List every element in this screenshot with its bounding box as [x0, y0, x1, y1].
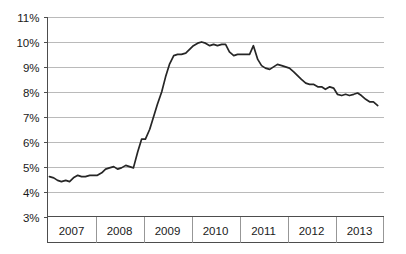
chart-canvas: 11%10%9%8%7%6%5%4%3% 2007200820092010201…: [0, 0, 406, 254]
y-tick-label: 9%: [23, 62, 40, 74]
y-tick-label: 10%: [16, 37, 39, 49]
axis-lines: [48, 17, 385, 243]
x-axis-tick-labels: 2007200820092010201120122013: [59, 225, 373, 237]
x-tick-label: 2012: [299, 225, 325, 237]
x-tick-label: 2007: [59, 225, 85, 237]
y-axis-tick-labels: 11%10%9%8%7%6%5%4%3%: [16, 12, 39, 224]
y-tick-label: 4%: [23, 187, 40, 199]
y-tick-label: 3%: [23, 212, 40, 224]
x-tick-label: 2008: [107, 225, 133, 237]
y-tick-label: 6%: [23, 137, 40, 149]
y-tick-label: 7%: [23, 112, 40, 124]
x-tick-label: 2010: [203, 225, 229, 237]
unemployment-rate-chart: 11%10%9%8%7%6%5%4%3% 2007200820092010201…: [0, 0, 406, 254]
gridlines: [48, 18, 384, 193]
y-tick-label: 11%: [17, 12, 39, 24]
y-tick-label: 8%: [23, 87, 40, 99]
x-tick-label: 2009: [155, 225, 181, 237]
unemployment-rate-line: [49, 42, 377, 182]
x-tick-label: 2013: [347, 225, 373, 237]
x-tick-label: 2011: [251, 225, 276, 237]
y-tick-label: 5%: [23, 162, 40, 174]
y-tick-marks: [44, 18, 48, 218]
